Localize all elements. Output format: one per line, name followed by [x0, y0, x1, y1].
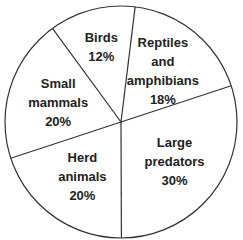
pie-chart: Reptilesandamphibians18%Largepredators30…: [0, 0, 243, 240]
